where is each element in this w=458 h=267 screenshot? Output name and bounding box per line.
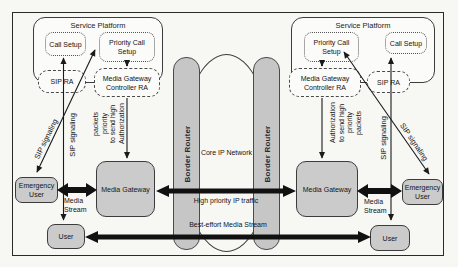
emergency-user-box-left: Emergency User <box>15 177 58 203</box>
sip-ra-box-left: SIP RA <box>38 70 86 93</box>
priority-call-setup-box-right: Priority Call Setup <box>304 32 359 62</box>
core-ip-network-label: Core IP Network <box>181 148 272 157</box>
sip-signaling-vertical-label-left: SIP signaling <box>68 113 77 157</box>
user-left-label: User <box>59 232 74 241</box>
authorization-label-right: Authorization to send high priority pack… <box>329 86 365 159</box>
media-gateway-box-right: Media Gateway <box>296 161 358 217</box>
media-gateway-box-left: Media Gateway <box>96 161 155 217</box>
emergency-user-box-right: Emergency User <box>402 179 443 205</box>
user-right-label: User <box>383 234 398 243</box>
user-box-left: User <box>47 224 85 249</box>
sip-ra-left-label: SIP RA <box>51 77 74 86</box>
priority-call-setup-box-left: Priority Call Setup <box>99 32 155 62</box>
emergency-user-left-label: Emergency User <box>19 181 54 199</box>
best-effort-stream-label: Best-effort Media Stream <box>158 220 298 229</box>
network-architecture-diagram: Service Platform Call Setup Priority Cal… <box>0 0 458 267</box>
service-platform-right-title: Service Platform <box>335 21 390 30</box>
media-gateway-left-label: Media Gateway <box>101 185 150 194</box>
media-stream-label-left: Media Stream <box>64 196 87 214</box>
call-setup-box-left: Call Setup <box>45 32 86 56</box>
service-platform-left-title: Service Platform <box>70 21 125 30</box>
media-gateway-right-label: Media Gateway <box>303 185 352 194</box>
high-priority-traffic-label: High priority IP traffic <box>160 196 292 205</box>
call-setup-right-label: Call Setup <box>390 39 422 48</box>
authorization-label-left: Authorization to send high priority pack… <box>92 87 126 160</box>
sip-ra-right-label: SIP RA <box>377 78 400 87</box>
user-box-right: User <box>370 225 410 251</box>
call-setup-left-label: Call Setup <box>49 40 81 49</box>
call-setup-box-right: Call Setup <box>385 32 427 54</box>
priority-call-setup-left-label: Priority Call Setup <box>109 38 145 56</box>
emergency-user-right-label: Emergency User <box>405 183 440 201</box>
priority-call-setup-right-label: Priority Call Setup <box>314 38 350 56</box>
sip-ra-box-right: SIP RA <box>367 71 410 93</box>
sip-signaling-vertical-label-right: SIP signaling <box>379 116 388 160</box>
media-stream-label-right: Media Stream <box>364 197 387 215</box>
